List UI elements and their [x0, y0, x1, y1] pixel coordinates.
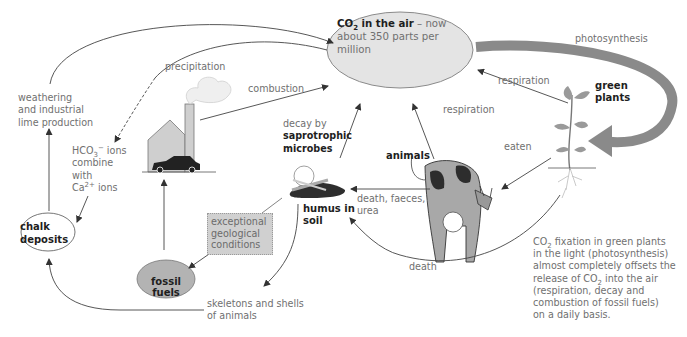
- chalk-deposits-label: chalkdeposits: [20, 221, 70, 246]
- combustion-label: combustion: [248, 83, 304, 95]
- skeletons-shells-label: skeletons and shellsof animals: [207, 298, 304, 323]
- weathering-label: weatheringand industriallime production: [18, 92, 93, 129]
- humus-skull-icon: [290, 166, 345, 198]
- eaten-label: eaten: [504, 141, 532, 153]
- plant-respiration-label: respiration: [498, 75, 550, 87]
- co2-in-air-label: CO2 in the air – now about 350 parts per…: [337, 17, 465, 56]
- eaten-arrow: [502, 158, 551, 189]
- precipitation-label: precipitation: [165, 61, 225, 73]
- animals-label: animals: [386, 150, 430, 162]
- humus-in-soil-label: humus insoil: [303, 203, 355, 228]
- death-label: death: [409, 261, 437, 273]
- exceptional-geological-conditions-box: exceptionalgeologicalconditions: [207, 213, 273, 255]
- animal-respiration-label: respiration: [443, 104, 495, 116]
- humus-to-geological-line: [262, 198, 282, 213]
- hco3-to-chalk-arrow: [77, 196, 88, 222]
- green-plants-label: greenplants: [595, 80, 630, 105]
- death-faeces-urea-label: death, faeces,urea: [357, 193, 425, 218]
- green-plant-icon: [548, 86, 596, 198]
- hco3-ions-label: HCO3− ionscombinewithCa2+ ions: [72, 145, 126, 195]
- fossil-fuels-label: fossil fuels: [137, 276, 195, 298]
- photosynthesis-label: photosynthesis: [575, 33, 648, 45]
- decay-label: decay bysaprotrophicmicrobes: [283, 118, 352, 155]
- co2-fixation-note: CO2 fixation in green plantsin the light…: [533, 236, 683, 321]
